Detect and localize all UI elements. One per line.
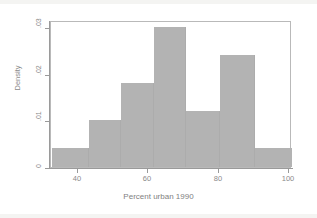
x-axis-title: Percent urban 1990 — [0, 192, 317, 201]
plot-area — [50, 21, 291, 168]
scan-edge-top — [0, 0, 317, 4]
y-axis-tick — [45, 75, 49, 76]
y-axis-tick — [45, 28, 49, 29]
x-axis-tick — [77, 169, 78, 173]
histogram-bar — [154, 27, 186, 167]
x-axis-tick — [147, 169, 148, 173]
histogram-bar — [121, 83, 154, 167]
x-axis-tick — [288, 169, 289, 173]
histogram-bar — [52, 148, 89, 167]
x-axis-tick-label: 80 — [214, 174, 222, 183]
histogram-bar — [255, 148, 292, 167]
histogram-figure: Density 0.01.02.03 406080100 Percent urb… — [0, 0, 317, 218]
scan-edge-bottom — [0, 214, 317, 218]
y-axis-tick — [45, 168, 49, 169]
y-axis-tick — [45, 121, 49, 122]
histogram-bar — [186, 111, 219, 167]
x-axis-tick-label: 100 — [282, 174, 295, 183]
x-axis-tick-label: 60 — [143, 174, 151, 183]
histogram-bar — [89, 120, 122, 167]
x-axis-line — [45, 168, 293, 169]
x-axis-tick — [218, 169, 219, 173]
histogram-bars — [51, 22, 290, 167]
histogram-bar — [220, 55, 256, 167]
y-axis-line — [49, 21, 50, 169]
x-axis-tick-label: 40 — [73, 174, 81, 183]
y-axis-title: Density — [13, 65, 22, 90]
